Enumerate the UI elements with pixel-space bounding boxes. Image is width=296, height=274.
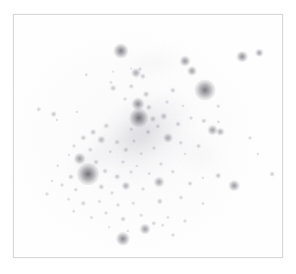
point-source xyxy=(207,125,218,136)
point-source xyxy=(55,163,60,168)
point-source xyxy=(114,139,120,145)
point-source xyxy=(187,65,197,75)
point-source xyxy=(116,203,121,208)
point-source xyxy=(139,152,144,157)
point-source xyxy=(200,176,204,180)
point-source xyxy=(236,51,248,63)
point-source xyxy=(161,223,166,228)
point-source xyxy=(146,104,152,110)
point-source xyxy=(200,201,204,205)
point-source xyxy=(122,181,131,190)
point-source xyxy=(108,150,113,155)
point-source xyxy=(179,55,190,66)
point-source xyxy=(97,199,101,203)
point-source xyxy=(163,133,173,143)
point-source xyxy=(50,179,54,183)
point-source xyxy=(178,195,183,200)
point-source xyxy=(81,201,86,206)
point-source xyxy=(131,67,141,77)
point-source xyxy=(181,104,185,108)
point-source xyxy=(55,118,59,122)
point-source xyxy=(166,215,170,219)
point-source xyxy=(67,174,73,180)
point-source xyxy=(138,66,143,71)
point-source xyxy=(160,112,168,120)
point-source xyxy=(80,135,86,141)
point-source xyxy=(149,116,156,123)
point-source xyxy=(129,67,133,71)
nebulosity-central-filament xyxy=(54,57,225,206)
point-source xyxy=(123,147,129,153)
point-source xyxy=(140,73,146,79)
nebulosity-west-wing xyxy=(48,119,134,200)
point-source xyxy=(129,169,134,174)
point-source xyxy=(145,129,151,135)
point-source xyxy=(97,136,105,144)
point-source xyxy=(44,191,49,196)
point-source xyxy=(216,128,224,136)
point-source xyxy=(110,85,117,92)
point-source xyxy=(139,213,144,218)
point-source xyxy=(255,48,263,56)
point-source xyxy=(170,87,176,93)
point-source xyxy=(107,225,111,229)
point-source xyxy=(109,80,113,84)
image-plate-frame xyxy=(13,14,283,258)
point-source xyxy=(215,172,222,179)
point-source xyxy=(126,229,130,233)
point-source xyxy=(89,215,93,219)
point-source xyxy=(129,127,134,132)
point-source xyxy=(73,153,86,166)
point-source xyxy=(90,129,97,136)
point-source xyxy=(158,161,163,166)
point-source xyxy=(78,163,100,185)
central-filament-structure xyxy=(50,49,241,228)
point-source xyxy=(157,198,163,204)
point-source xyxy=(73,187,78,192)
point-source xyxy=(132,98,145,111)
point-source xyxy=(151,221,156,226)
nebulosity-north-halo xyxy=(99,34,207,92)
point-source xyxy=(170,233,175,238)
sky-canvas xyxy=(14,15,282,257)
point-source xyxy=(151,145,156,150)
point-source xyxy=(66,153,70,157)
point-source xyxy=(269,171,275,177)
point-source xyxy=(194,80,215,101)
point-source xyxy=(114,173,121,180)
point-source xyxy=(256,152,260,156)
point-source xyxy=(71,143,76,148)
point-source xyxy=(114,43,129,58)
point-source xyxy=(104,211,109,216)
point-source xyxy=(188,116,193,121)
sky-vignette xyxy=(14,15,282,257)
point-source xyxy=(155,123,160,128)
point-source xyxy=(178,140,183,145)
point-source xyxy=(84,72,89,77)
point-source xyxy=(121,159,126,164)
point-source xyxy=(102,168,108,174)
point-source xyxy=(111,70,115,74)
point-source xyxy=(71,209,76,214)
point-source xyxy=(248,135,253,140)
point-source xyxy=(93,159,99,165)
point-source xyxy=(135,164,139,168)
point-source xyxy=(200,118,206,124)
point-source xyxy=(66,197,71,202)
nebulosity-east-diffuse xyxy=(148,114,248,194)
point-source xyxy=(116,232,130,246)
point-source xyxy=(103,123,109,129)
point-source xyxy=(110,190,115,195)
point-source xyxy=(187,181,193,187)
point-source xyxy=(147,171,152,176)
point-source xyxy=(175,121,181,127)
point-source xyxy=(143,91,150,98)
point-source xyxy=(132,138,137,143)
point-source xyxy=(59,182,64,187)
point-source xyxy=(128,84,133,89)
point-source xyxy=(120,216,126,222)
point-source xyxy=(129,108,148,127)
point-source xyxy=(196,143,202,149)
point-source xyxy=(228,180,240,192)
point-source xyxy=(153,176,164,187)
